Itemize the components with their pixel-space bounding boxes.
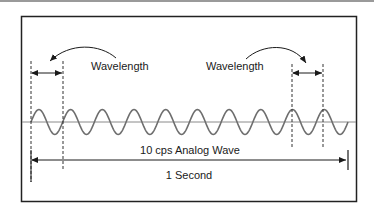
left-curved-pointer-arrow: [50, 47, 116, 61]
wavelength-label-right: Wavelength: [206, 60, 264, 72]
analog-wave: [31, 110, 348, 135]
wave-caption: 10 cps Analog Wave: [140, 144, 240, 156]
duration-label: 1 Second: [166, 169, 212, 181]
wavelength-label-left: Wavelength: [91, 60, 149, 72]
analog-wave-diagram: Wavelength Wavelength 10 cps Analog Wave…: [0, 0, 374, 214]
